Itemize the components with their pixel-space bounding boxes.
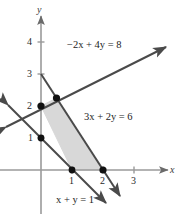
- x-axis-name: x: [170, 165, 174, 175]
- equation-label-line-2: 3x + 2y = 6: [84, 112, 133, 123]
- x-tick-label-1: 1: [69, 176, 74, 186]
- equation-label-line-1: −2x + 4y = 8: [67, 40, 122, 51]
- point-0-2: [37, 102, 44, 109]
- point-0-1: [38, 135, 45, 142]
- y-tick-label-1: 1: [28, 133, 33, 143]
- x-tick-label-2: 2: [100, 176, 105, 186]
- y-tick-label-4: 4: [27, 37, 32, 47]
- shaded-feasible-region: [41, 98, 103, 170]
- y-axis-name: y: [37, 5, 41, 15]
- graph-figure: 4 3 2 1 1 2 3 x y −2x + 4y = 8 3x + 2y =…: [0, 0, 184, 218]
- point-half-2point25: [53, 94, 60, 101]
- x-tick-label-3: 3: [131, 176, 136, 186]
- y-tick-label-3: 3: [27, 69, 32, 79]
- point-2-0: [99, 166, 106, 173]
- y-axis: [38, 16, 45, 214]
- equation-label-line-3: x + y = 1: [56, 195, 94, 206]
- point-1-0: [69, 167, 76, 174]
- y-tick-label-2: 2: [27, 101, 32, 111]
